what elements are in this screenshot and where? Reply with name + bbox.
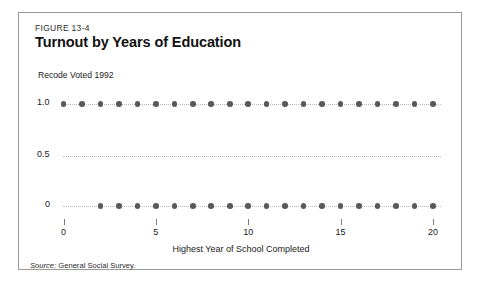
data-point: [393, 203, 399, 209]
data-point: [301, 203, 307, 209]
x-tick-label: 10: [243, 227, 253, 237]
data-point: [135, 203, 141, 209]
x-tick-label: 0: [61, 227, 66, 237]
data-point: [208, 203, 214, 209]
data-point: [208, 101, 214, 107]
data-point: [153, 101, 159, 107]
data-point: [245, 203, 251, 209]
data-point: [375, 203, 381, 209]
data-point: [227, 101, 233, 107]
x-tick-mark: [341, 219, 342, 225]
x-axis-line: [63, 224, 441, 225]
data-point: [393, 101, 399, 107]
data-point: [282, 101, 288, 107]
data-point: [319, 203, 325, 209]
data-point: [135, 101, 141, 107]
chart-plot-area: Recode Voted 1992 1.0 0.5 0 05101520 Hig…: [19, 13, 463, 271]
data-point: [79, 101, 85, 107]
data-point: [338, 101, 344, 107]
data-point: [190, 203, 196, 209]
source-note: Source: General Social Survey.: [30, 261, 135, 270]
y-tick-label-0: 0: [45, 199, 50, 209]
data-point: [375, 101, 381, 107]
data-point: [264, 203, 270, 209]
data-point: [319, 101, 325, 107]
y-axis-title: Recode Voted 1992: [38, 70, 114, 80]
source-text: General Social Survey.: [58, 261, 135, 270]
data-point: [245, 101, 251, 107]
y-tick-label-1: 1.0: [37, 97, 50, 107]
gridline-0-5: [63, 156, 441, 157]
data-point: [227, 203, 233, 209]
data-point: [98, 203, 104, 209]
data-point: [190, 101, 196, 107]
data-point: [172, 203, 178, 209]
x-tick-mark: [248, 219, 249, 225]
x-tick-label: 20: [428, 227, 438, 237]
x-axis-title: Highest Year of School Completed: [19, 244, 463, 254]
data-point: [356, 101, 362, 107]
x-tick-label: 15: [336, 227, 346, 237]
data-point: [264, 101, 270, 107]
data-point: [153, 203, 159, 209]
x-tick-mark: [433, 219, 434, 225]
data-point: [172, 101, 178, 107]
x-tick-label: 5: [153, 227, 158, 237]
data-point: [412, 203, 418, 209]
data-point: [412, 101, 418, 107]
data-point: [356, 203, 362, 209]
data-point: [116, 101, 122, 107]
data-point: [98, 101, 104, 107]
data-point: [116, 203, 122, 209]
data-point: [301, 101, 307, 107]
data-point: [61, 101, 67, 107]
source-label: Source:: [30, 261, 56, 270]
data-point: [282, 203, 288, 209]
x-tick-mark: [156, 219, 157, 225]
data-point: [430, 101, 436, 107]
x-tick-mark: [64, 219, 65, 225]
data-point: [430, 203, 436, 209]
data-point: [338, 203, 344, 209]
y-tick-label-0-5: 0.5: [37, 149, 50, 159]
figure-frame: FIGURE 13-4 Turnout by Years of Educatio…: [18, 12, 462, 270]
